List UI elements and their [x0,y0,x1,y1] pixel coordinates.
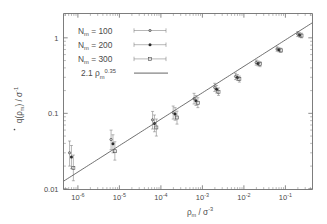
legend-label: Nm = 100 [78,26,113,37]
legend-label: Nm = 300 [78,54,113,65]
y-tick-label: 1 [54,34,58,43]
y-tick-label: 0.01 [44,185,59,194]
plot-canvas: 10-610-510-410-310-210-1 10.10.01 ρm / σ… [0,0,327,224]
scatter-plot-figure: 10-610-510-410-310-210-1 10.10.01 ρm / σ… [0,0,327,224]
y-tick-label: 0.1 [48,109,58,118]
svg-text:q(ρm) / σ-1: q(ρm) / σ-1 [13,87,25,123]
data-point-marker [174,112,177,115]
data-point-marker [111,142,114,145]
legend-label: Nm = 200 [78,40,113,51]
data-point-marker [149,43,152,46]
data-point-marker [194,99,197,102]
q-dot-accent [14,129,16,131]
data-point-marker [70,155,73,158]
